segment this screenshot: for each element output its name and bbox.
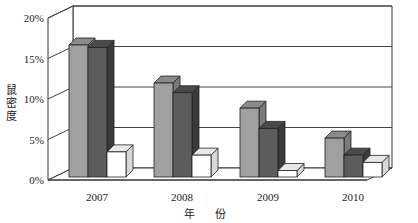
x-category-label: 2010 — [342, 191, 365, 203]
bar — [154, 83, 173, 177]
bar — [240, 108, 259, 177]
x-axis-title: 年 份 — [0, 205, 418, 221]
x-category-label: 2007 — [86, 191, 109, 203]
y-axis-title: 鼠密度 — [4, 84, 18, 123]
y-tick-label: 10% — [24, 93, 44, 105]
y-tick-label: 5% — [29, 134, 44, 146]
bar — [344, 155, 363, 177]
y-tick-label: 15% — [24, 53, 44, 65]
bar-chart-3d: 0%5%10%15%20% 2007200820092010 — [0, 0, 418, 223]
bar — [363, 162, 382, 177]
y-axis-ticks: 0%5%10%15%20% — [24, 12, 44, 186]
bar — [192, 155, 211, 177]
x-axis-categories: 2007200820092010 — [86, 191, 365, 203]
bar — [259, 128, 278, 177]
bar — [69, 45, 88, 177]
bar — [325, 138, 344, 177]
bar — [173, 93, 192, 177]
bar — [88, 47, 107, 177]
x-category-label: 2008 — [171, 191, 194, 203]
x-category-label: 2009 — [257, 191, 280, 203]
bar — [107, 152, 126, 177]
y-tick-label: 0% — [29, 174, 44, 186]
bar — [278, 171, 297, 177]
y-tick-label: 20% — [24, 12, 44, 24]
